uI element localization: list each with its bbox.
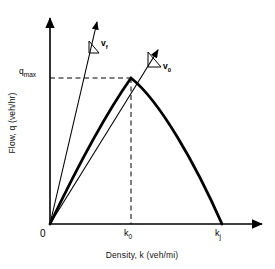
k0-subscript: 0 bbox=[129, 233, 133, 240]
v0-ray bbox=[50, 50, 158, 224]
v0-subscript: 0 bbox=[168, 67, 171, 73]
flow-density-diagram: Flow, q (veh/hr) Density, k (veh/mi) 0 q… bbox=[0, 0, 275, 269]
origin-label: 0 bbox=[40, 228, 46, 239]
v0-slope-label: v0 bbox=[163, 61, 171, 73]
vf-subscript: f bbox=[106, 44, 108, 50]
kj-tick-label: kj bbox=[215, 228, 221, 240]
x-axis-title: Density, k (veh/mi) bbox=[72, 250, 212, 260]
vf-ray bbox=[50, 22, 97, 224]
y-axis-title: Flow, q (veh/hr) bbox=[7, 67, 17, 179]
vf-slope-label: vf bbox=[101, 38, 108, 50]
kj-subscript: j bbox=[220, 233, 221, 240]
flow-density-curve bbox=[50, 78, 222, 224]
qmax-subscript: max bbox=[24, 71, 36, 78]
v0-slope-triangle bbox=[148, 52, 161, 67]
qmax-tick-label: qmax bbox=[19, 66, 36, 78]
k0-tick-label: k0 bbox=[124, 228, 132, 240]
